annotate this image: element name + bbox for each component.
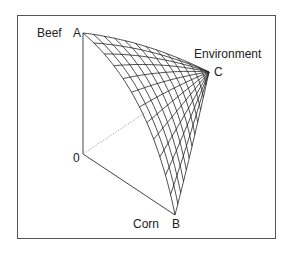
beef-axis-label: Beef bbox=[37, 27, 62, 39]
axis-corn bbox=[83, 154, 175, 215]
vertex-b-label: B bbox=[172, 218, 180, 230]
origin-label: 0 bbox=[73, 152, 80, 164]
surface-mesh bbox=[83, 33, 209, 215]
corn-axis-label: Corn bbox=[133, 218, 159, 230]
vertex-c-label: C bbox=[214, 66, 223, 78]
axis-environment-hidden bbox=[83, 112, 146, 154]
environment-axis-label: Environment bbox=[194, 48, 261, 60]
vertex-a-label: A bbox=[73, 27, 81, 39]
